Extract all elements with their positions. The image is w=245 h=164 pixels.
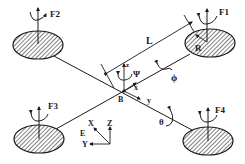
rotor-f4: F4: [183, 105, 233, 155]
rotor-label-f1: F1: [219, 7, 229, 17]
yaw-arrow: [118, 74, 132, 80]
rotor-radius-label: R: [195, 43, 202, 53]
body-z-label: z: [126, 61, 129, 69]
spin-arrow-f1: [199, 16, 217, 24]
arms: [52, 54, 192, 130]
earth-frame: [90, 127, 110, 144]
earth-y-label: Y: [82, 140, 88, 149]
arm-length-label: L: [146, 35, 153, 46]
rotor-label-f4: F4: [215, 105, 225, 115]
rotor-disk-f1: [185, 29, 235, 57]
body-center-label: B: [118, 95, 124, 104]
quadrotor-diagram: L F2 F1 R F3 F4 B z x y Ψ: [0, 0, 245, 164]
roll-label: ϕ: [171, 72, 177, 83]
yaw-label: Ψ: [133, 69, 140, 79]
earth-z-label: Z: [107, 119, 112, 128]
body-y-label: y: [147, 96, 151, 105]
earth-x-label: X: [88, 119, 94, 128]
earth-origin-label: E: [80, 129, 85, 138]
rotor-label-f3: F3: [48, 101, 58, 111]
rotor-f1: F1 R: [185, 7, 235, 57]
rotor-f3: F3: [14, 101, 64, 153]
earth-x-axis: [94, 128, 110, 144]
rotor-f2: F2: [13, 8, 63, 59]
body-x-label: x: [134, 83, 138, 92]
roll-arrow: [157, 63, 172, 70]
rotor-label-f2: F2: [50, 9, 60, 19]
pitch-label: θ: [159, 117, 164, 127]
body-center-point: [122, 89, 125, 92]
